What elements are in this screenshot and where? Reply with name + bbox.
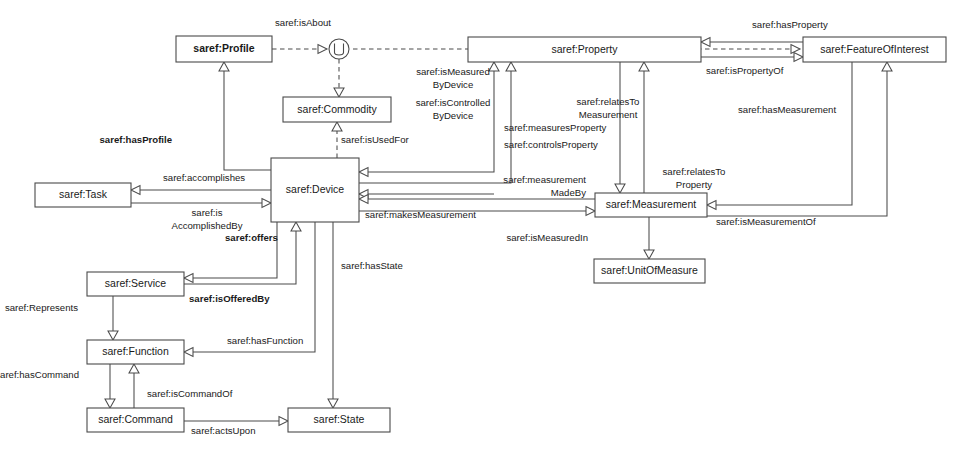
edge-isofferedby xyxy=(184,222,277,278)
edge-label-line: saref:isMeasurementOf xyxy=(716,216,816,227)
edge-label-line: saref:isUsedFor xyxy=(341,134,410,145)
node-device[interactable]: saref:Device xyxy=(271,158,359,222)
edge-label-line: saref:relatesTo xyxy=(663,166,726,177)
edge-ismeasurementof xyxy=(707,71,887,216)
arrowhead-hasprofile-profile xyxy=(219,62,229,71)
arrowhead-controlsproperty-property xyxy=(506,62,516,71)
edge-label-measuresProperty: saref:measuresProperty xyxy=(504,122,607,133)
arrowhead-hasstate-state xyxy=(328,399,338,408)
node-label-command: saref:Command xyxy=(98,413,173,425)
edge-label-line: Property xyxy=(676,178,712,189)
edge-label-line: saref:hasProperty xyxy=(752,19,828,30)
edge-label-line: saref:isOfferedBy xyxy=(189,293,270,304)
arrowhead-isofferedby-service xyxy=(184,274,193,283)
edge-label-isMeasurementOf: saref:isMeasurementOf xyxy=(716,216,816,227)
node-function[interactable]: saref:Function xyxy=(87,340,184,364)
edge-label-isCommandOf: saref:isCommandOf xyxy=(147,388,233,399)
edge-label-line: Measurement xyxy=(579,108,638,119)
arrowhead-relatestomeasurement-measurement xyxy=(615,184,625,193)
union-junction-circle xyxy=(329,39,349,59)
edge-label-line: saref:isPropertyOf xyxy=(706,65,784,76)
edge-label-line: saref:accomplishes xyxy=(163,172,245,183)
node-profile[interactable]: saref:Profile xyxy=(176,36,272,62)
edge-label-hasCommand: saref:hasCommand xyxy=(0,369,79,380)
edge-label-line: saref:isMeasured xyxy=(416,66,490,77)
arrowhead-actsupon-state xyxy=(279,417,288,426)
edge-label-line: saref:isAbout xyxy=(275,17,331,28)
arrowhead-makesmeasurement-measurement xyxy=(586,207,595,216)
edge-label-line: saref:hasCommand xyxy=(0,369,79,380)
node-label-profile: saref:Profile xyxy=(193,42,254,54)
node-featureofinterest[interactable]: saref:FeatureOfInterest xyxy=(803,37,946,62)
arrowhead-accomplishes-task xyxy=(131,186,140,195)
edge-label-Represents: saref:Represents xyxy=(5,302,78,313)
node-unitofmeasure[interactable]: saref:UnitOfMeasure xyxy=(594,259,705,283)
edge-label-relatesToMeasurement: saref:relatesToMeasurement xyxy=(577,96,640,120)
edge-label-line: saref:controlsProperty xyxy=(504,139,598,150)
arrowhead-hascommand-command xyxy=(105,399,115,408)
edge-label-line: ByDevice xyxy=(433,109,474,120)
edge-label-line: saref:Represents xyxy=(5,302,78,313)
edge-label-hasProperty: saref:hasProperty xyxy=(752,19,828,30)
edge-label-line: saref:isMeasuredIn xyxy=(506,232,588,243)
node-commodity[interactable]: saref:Commodity xyxy=(283,97,391,122)
arrowhead-isabout-property xyxy=(791,45,800,54)
edge-label-relatesToProperty: saref:relatesToProperty xyxy=(663,166,726,190)
edge-label-line: saref:isCommandOf xyxy=(147,388,233,399)
edge-label-line: saref:hasState xyxy=(341,260,403,271)
edge-label-controlsProperty: saref:controlsProperty xyxy=(504,139,598,150)
node-label-task: saref:Task xyxy=(59,188,108,200)
node-command[interactable]: saref:Command xyxy=(87,408,184,432)
node-service[interactable]: saref:Service xyxy=(87,272,184,296)
edge-label-accomplishes: saref:accomplishes xyxy=(163,172,245,183)
edge-label-layer: saref:isAboutsaref:isMeasuredByDevicesar… xyxy=(0,17,836,436)
node-state[interactable]: saref:State xyxy=(288,408,390,432)
arrowhead-junction-commodity xyxy=(334,88,344,97)
node-label-measurement: saref:Measurement xyxy=(606,198,697,210)
edge-label-isOfferedBy: saref:isOfferedBy xyxy=(189,293,270,304)
arrowhead-isabout-junction xyxy=(318,45,327,54)
arrowhead-hasproperty-property xyxy=(701,38,710,47)
node-task[interactable]: saref:Task xyxy=(35,183,131,207)
edge-label-offers: saref:offers xyxy=(225,232,278,243)
edge-label-isMeasuredByDevice: saref:isMeasuredByDevice xyxy=(416,66,490,90)
arrowhead-relatestoproperty-property xyxy=(639,62,649,71)
edge-hasmeasurement xyxy=(716,62,852,205)
node-label-service: saref:Service xyxy=(105,277,166,289)
arrowhead-isaccomplishedby-device xyxy=(262,199,271,208)
edge-label-line: MadeBy xyxy=(551,186,586,197)
edge-label-line: saref:hasProfile xyxy=(99,134,172,145)
node-measurement[interactable]: saref:Measurement xyxy=(595,193,707,217)
node-label-commodity: saref:Commodity xyxy=(297,103,377,115)
arrowhead-measuresproperty-property xyxy=(489,62,499,71)
edge-label-hasProfile: saref:hasProfile xyxy=(99,134,172,145)
edge-label-isAccomplishedBy: saref:isAccomplishedBy xyxy=(172,207,243,231)
edge-label-line: saref:hasFunction xyxy=(227,335,303,346)
node-label-featureofinterest: saref:FeatureOfInterest xyxy=(820,43,929,55)
saref-ontology-diagram: saref:Profilesaref:Commoditysaref:Proper… xyxy=(0,0,970,462)
node-label-state: saref:State xyxy=(314,413,365,425)
arrowhead-ismeasuredin-unitofmeasure xyxy=(644,250,654,259)
arrowhead-hasmeasurement-measurement xyxy=(707,201,716,210)
edge-hasprofile xyxy=(224,71,271,170)
node-label-device: saref:Device xyxy=(286,183,345,195)
node-layer: saref:Profilesaref:Commoditysaref:Proper… xyxy=(35,36,946,432)
edge-label-hasFunction: saref:hasFunction xyxy=(227,335,303,346)
arrowhead-isusedfor-commodity xyxy=(332,122,342,131)
edge-label-isPropertyOf: saref:isPropertyOf xyxy=(706,65,784,76)
edge-label-measurementMadeBy: saref:measurementMadeBy xyxy=(503,174,586,198)
arrowhead-iscommandof-function xyxy=(129,364,139,373)
edge-label-line: saref:relatesTo xyxy=(577,96,640,107)
edge-label-line: saref:measurement xyxy=(503,174,586,185)
edge-label-line: saref:hasMeasurement xyxy=(738,104,836,115)
arrowhead-hasfunction-function xyxy=(184,348,193,357)
edge-label-line: saref:measuresProperty xyxy=(504,122,607,133)
arrowhead-ismeasurementof-foi xyxy=(882,62,892,71)
node-property[interactable]: saref:Property xyxy=(468,37,701,62)
edge-label-isControlledByDevice: saref:isControlledByDevice xyxy=(416,97,491,121)
edge-label-line: ByDevice xyxy=(433,78,474,89)
node-label-property: saref:Property xyxy=(552,43,619,55)
arrowhead-ispropertyof-foi xyxy=(794,53,803,62)
edge-layer xyxy=(105,38,892,426)
edge-label-line: saref:isControlled xyxy=(416,97,491,108)
